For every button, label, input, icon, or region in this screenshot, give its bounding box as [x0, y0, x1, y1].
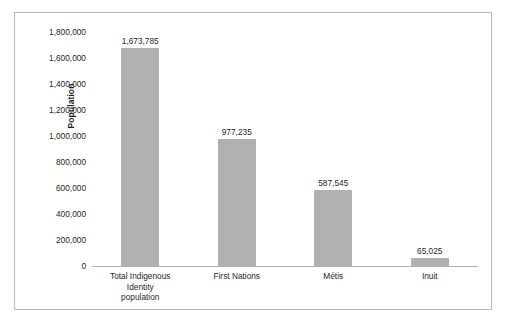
y-tick-label: 800,000: [20, 158, 86, 167]
x-axis-tick-labels: Total IndigenousIdentitypopulation First…: [92, 271, 478, 311]
bar-value-label: 587,545: [285, 178, 382, 188]
x-tick-label-inuit: Inuit: [375, 271, 485, 282]
bar[interactable]: [218, 139, 256, 266]
y-axis-tick-labels: 1,800,000 1,600,000 1,400,000 1,200,000 …: [20, 0, 86, 333]
x-axis-line: [92, 266, 478, 267]
bar[interactable]: [314, 190, 352, 266]
bar-group: 1,673,785: [92, 20, 189, 266]
y-tick-label: 0: [20, 262, 86, 271]
y-tick-label: 400,000: [20, 210, 86, 219]
x-tick-label-first-nations: First Nations: [182, 271, 292, 282]
bar[interactable]: [411, 258, 449, 266]
bar-group: 587,545: [285, 20, 382, 266]
x-tick-label-total-indigenous: Total IndigenousIdentitypopulation: [85, 271, 195, 303]
y-tick-label: 1,200,000: [20, 106, 86, 115]
bar-value-label: 65,025: [382, 246, 479, 256]
bar-value-label: 1,673,785: [92, 36, 189, 46]
y-tick-label: 600,000: [20, 184, 86, 193]
y-tick-label: 200,000: [20, 236, 86, 245]
bar[interactable]: [121, 48, 159, 266]
y-tick-label: 1,000,000: [20, 132, 86, 141]
x-tick-label-metis: Métis: [278, 271, 388, 282]
y-tick-label: 1,800,000: [20, 28, 86, 37]
plot-area: 1,673,785 977,235 587,545 65,025: [92, 20, 478, 266]
figure: Population 1,800,000 1,600,000 1,400,000…: [0, 0, 508, 333]
bar-value-label: 977,235: [189, 127, 286, 137]
y-tick-label: 1,600,000: [20, 54, 86, 63]
bar-group: 65,025: [382, 20, 479, 266]
bar-group: 977,235: [189, 20, 286, 266]
y-tick-label: 1,400,000: [20, 80, 86, 89]
